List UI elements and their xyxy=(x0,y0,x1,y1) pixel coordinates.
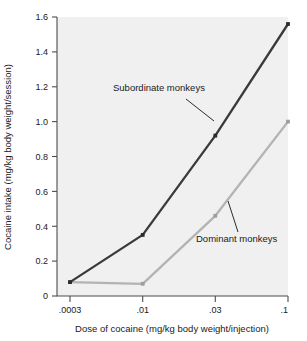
data-point-marker xyxy=(141,282,145,286)
data-point-marker xyxy=(141,233,145,237)
y-tick-label: 0 xyxy=(43,291,48,301)
data-point-marker xyxy=(68,280,72,284)
y-tick-label: 0.8 xyxy=(35,152,48,162)
cocaine-intake-line-chart: 0 0.2 0.4 0.6 0.8 1.0 1.2 1.4 1.6 .0003 … xyxy=(0,0,307,341)
y-tick-label: 1.2 xyxy=(35,82,48,92)
data-point-marker xyxy=(286,22,290,26)
x-axis-title: Dose of cocaine (mg/kg body weight/injec… xyxy=(75,323,269,334)
x-tick-label: .1 xyxy=(280,305,288,315)
annotation-label-subordinate-monkeys: Subordinate monkeys xyxy=(113,82,205,93)
x-tick-label: .0003 xyxy=(59,305,82,315)
chart-figure: 0 0.2 0.4 0.6 0.8 1.0 1.2 1.4 1.6 .0003 … xyxy=(0,0,307,341)
y-tick-label: 0.6 xyxy=(35,187,48,197)
y-axis-title: Cocaine intake (mg/kg body weight/sessio… xyxy=(2,64,13,250)
y-tick-label: 1.4 xyxy=(35,47,48,57)
y-tick-label: 1.6 xyxy=(35,12,48,22)
x-tick-label: .03 xyxy=(209,305,222,315)
x-tick-label: .01 xyxy=(136,305,149,315)
data-point-marker xyxy=(213,134,217,138)
annotation-label-dominant-monkeys: Dominant monkeys xyxy=(196,233,278,244)
data-point-marker xyxy=(286,120,290,124)
data-point-marker xyxy=(213,214,217,218)
y-tick-label: 1.0 xyxy=(35,117,48,127)
y-axis-tick-labels: 0 0.2 0.4 0.6 0.8 1.0 1.2 1.4 1.6 xyxy=(35,12,48,301)
y-tick-label: 0.2 xyxy=(35,256,48,266)
plot-area-background xyxy=(57,17,288,296)
y-tick-label: 0.4 xyxy=(35,222,48,232)
